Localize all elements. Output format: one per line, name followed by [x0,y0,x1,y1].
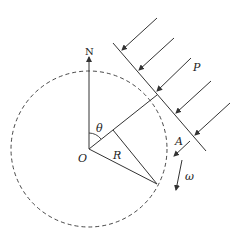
wavefront-line [113,43,206,151]
radius-label: R [112,149,121,162]
north-label: N [85,46,94,57]
beam-arrow-5 [195,103,230,135]
beam-arrow-2 [139,38,174,70]
beam-arrow-3 [157,58,191,91]
omega-arrow [176,160,182,190]
diagram-svg: N O θ R P A ω [0,0,233,242]
origin-label: O [78,152,87,165]
theta-label: θ [96,122,103,135]
point-label-a: A [174,135,183,148]
radius-line [89,149,157,184]
beam-label-p: P [192,61,201,74]
diagram-canvas: N O θ R P A ω [0,0,233,242]
omega-label: ω [185,170,194,183]
beam-arrow-4 [176,81,211,113]
beam-arrow-1 [122,18,157,50]
